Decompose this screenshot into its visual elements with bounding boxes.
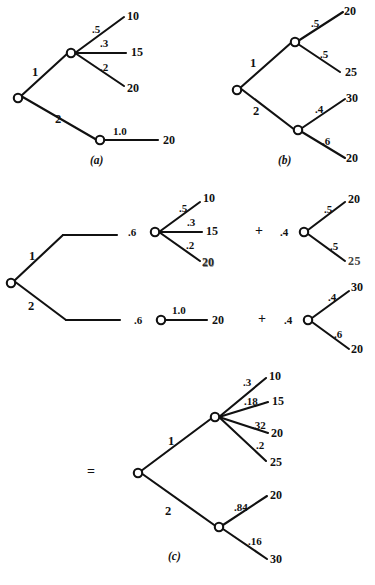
label-mid-row2-prob-a1: 1.0 — [172, 305, 186, 316]
tree-diagram-canvas — [0, 0, 375, 585]
edge-b-lower-out1 — [302, 99, 345, 128]
label-mid-row2-value-b1: 30 — [351, 281, 363, 293]
label-b-prob-lower-top: .4 — [315, 104, 323, 115]
caption-panel-c: (c) — [168, 551, 181, 563]
label-c-prob-4: .2 — [256, 440, 264, 451]
edge-mid-root-down-diag — [14, 281, 66, 320]
edge-b-upper-out1 — [298, 12, 343, 41]
label-a-prob-mid: .3 — [100, 38, 108, 49]
label-mid-row1-value-a3: 20 — [202, 256, 214, 268]
panel-mid-edges — [14, 202, 349, 349]
label-c-value-1: 10 — [269, 370, 281, 382]
node-mid-root — [7, 279, 15, 287]
caption-panel-b: (b) — [278, 155, 291, 167]
label-b-value-lower-bot: 20 — [346, 152, 358, 164]
label-b-value-upper-top: 20 — [344, 5, 356, 17]
label-mid-row1-value-a2: 15 — [206, 225, 218, 237]
label-c-prob-6: .16 — [248, 536, 262, 547]
figure-root: 1 2 .5 .3 .2 10 15 20 1.0 20 (a) 1 2 .5 … — [0, 0, 375, 585]
edge-mid-root-up-diag — [14, 235, 63, 281]
label-mid-row2-weight-a: .6 — [134, 315, 142, 326]
label-b-prob-lower-bot: .6 — [322, 136, 330, 147]
label-c-prob-5: .84 — [234, 502, 248, 513]
node-c-chance-upper — [211, 413, 219, 421]
node-c-root — [134, 469, 142, 477]
label-a-prob-top: .5 — [92, 24, 100, 35]
label-mid-row2-weight-b: .4 — [284, 315, 292, 326]
label-c-value-3: 20 — [271, 427, 283, 439]
node-mid-r1-subtree-b — [300, 228, 308, 236]
label-c-prob-3: .32 — [252, 420, 266, 431]
label-mid-row1-plus: + — [255, 224, 263, 238]
label-c-branch-1: 1 — [168, 435, 174, 448]
label-a-branch-1: 1 — [32, 66, 38, 79]
node-mid-r2-subtree-a — [157, 316, 165, 324]
label-c-branch-2: 2 — [165, 505, 171, 518]
label-mid-row1-prob-b1: .5 — [324, 204, 332, 215]
label-mid-row2-plus: + — [258, 312, 266, 326]
label-mid-row1-value-b1: 20 — [348, 193, 360, 205]
label-b-branch-2: 2 — [253, 105, 259, 118]
label-c-prob-2: .18 — [244, 396, 258, 407]
edge-mid-r2b-out2 — [312, 322, 349, 349]
label-b-prob-upper-top: .5 — [311, 18, 319, 29]
label-mid-row2-prob-b2: .6 — [334, 329, 342, 340]
edge-b-root-upper — [240, 42, 292, 88]
label-c-value-2: 15 — [272, 395, 284, 407]
label-a-value-lower: 20 — [163, 134, 175, 146]
label-a-prob-bot: .2 — [100, 62, 108, 73]
edge-a-root-upper — [21, 53, 68, 96]
node-mid-r1-subtree-a — [151, 228, 159, 236]
panel-c-nodes — [134, 413, 223, 531]
label-b-value-upper-bot: 25 — [345, 66, 357, 78]
node-a-root — [14, 94, 22, 102]
label-c-value-4: 25 — [270, 456, 282, 468]
label-mid-row2-value-a1: 20 — [212, 314, 224, 326]
label-c-value-5: 20 — [270, 489, 282, 501]
label-mid-row1-prob-a3: .2 — [186, 240, 194, 251]
node-a-chance-upper — [67, 49, 75, 57]
label-mid-row2-value-b2: 20 — [351, 343, 363, 355]
label-b-value-lower-top: 30 — [346, 92, 358, 104]
label-mid-row1-value-a1: 10 — [203, 192, 215, 204]
label-mid-row1-prob-a2: .3 — [187, 217, 195, 228]
label-mid-row1-prob-b2: .5 — [330, 241, 338, 252]
panel-a-edges — [21, 17, 158, 140]
label-a-value-top: 10 — [127, 10, 139, 22]
label-mid-branch-1: 1 — [29, 250, 35, 263]
label-mid-row1-weight-b: .4 — [280, 227, 288, 238]
label-mid-row1-value-b2: 25 — [348, 255, 361, 267]
node-b-chance-upper — [291, 38, 299, 46]
node-b-chance-lower — [294, 126, 302, 134]
edge-c-root-upper — [141, 418, 212, 471]
label-mid-row2-prob-b1: .4 — [328, 292, 336, 303]
caption-panel-a: (a) — [90, 155, 103, 167]
edge-b-root-lower — [240, 88, 295, 130]
node-b-root — [233, 86, 241, 94]
node-c-chance-lower — [215, 523, 223, 531]
label-mid-row1-prob-a1: .5 — [179, 203, 187, 214]
edge-b-upper-out2 — [298, 44, 340, 72]
edge-mid-r1b-out2 — [308, 234, 345, 261]
label-c-equals: = — [87, 465, 95, 479]
node-mid-r2-subtree-b — [304, 316, 312, 324]
edge-c-root-lower — [141, 473, 217, 527]
label-c-prob-1: .3 — [243, 377, 251, 388]
label-b-branch-1: 1 — [250, 57, 256, 70]
label-a-value-mid: 15 — [131, 46, 143, 58]
label-c-value-6: 30 — [270, 553, 282, 565]
label-mid-row1-weight-a: .6 — [128, 227, 136, 238]
label-a-prob-lower: 1.0 — [113, 126, 127, 137]
label-b-prob-upper-bot: .5 — [320, 49, 328, 60]
label-mid-branch-2: 2 — [28, 300, 34, 313]
node-a-chance-lower — [96, 136, 104, 144]
label-a-branch-2: 2 — [55, 113, 61, 126]
label-a-value-bot: 20 — [127, 82, 139, 94]
